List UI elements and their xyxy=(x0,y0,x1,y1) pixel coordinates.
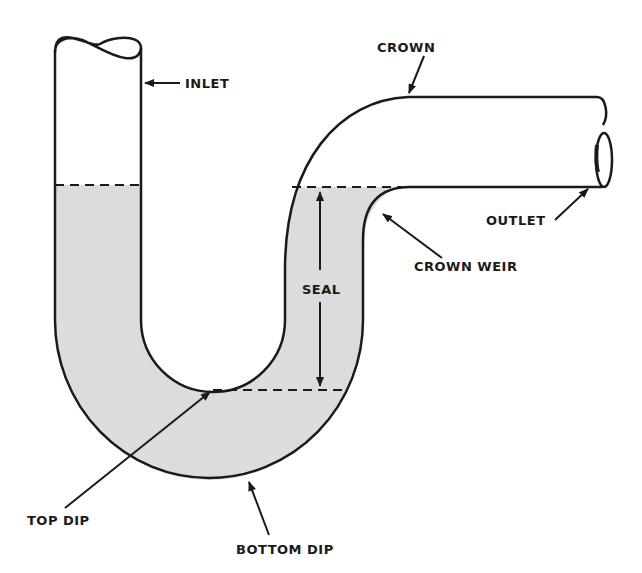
crown-arrow xyxy=(409,56,424,93)
inlet-pipe-end xyxy=(55,37,141,58)
label-crown: CROWN xyxy=(377,41,435,54)
label-inlet: INLET xyxy=(185,77,229,90)
outlet-pipe-end xyxy=(597,97,606,125)
water-fill xyxy=(55,185,402,480)
label-bottom-dip: BOTTOM DIP xyxy=(236,543,334,556)
p-trap-diagram: INLET CROWN OUTLET CROWN WEIR SEAL TOP D… xyxy=(0,0,642,573)
label-seal: SEAL xyxy=(302,283,341,296)
label-top-dip: TOP DIP xyxy=(27,514,90,527)
crown-weir-arrow xyxy=(383,214,442,258)
label-outlet: OUTLET xyxy=(486,214,546,227)
outlet-arrow xyxy=(555,189,588,220)
label-crown-weir: CROWN WEIR xyxy=(414,260,517,273)
bottom-dip-arrow xyxy=(249,482,269,535)
